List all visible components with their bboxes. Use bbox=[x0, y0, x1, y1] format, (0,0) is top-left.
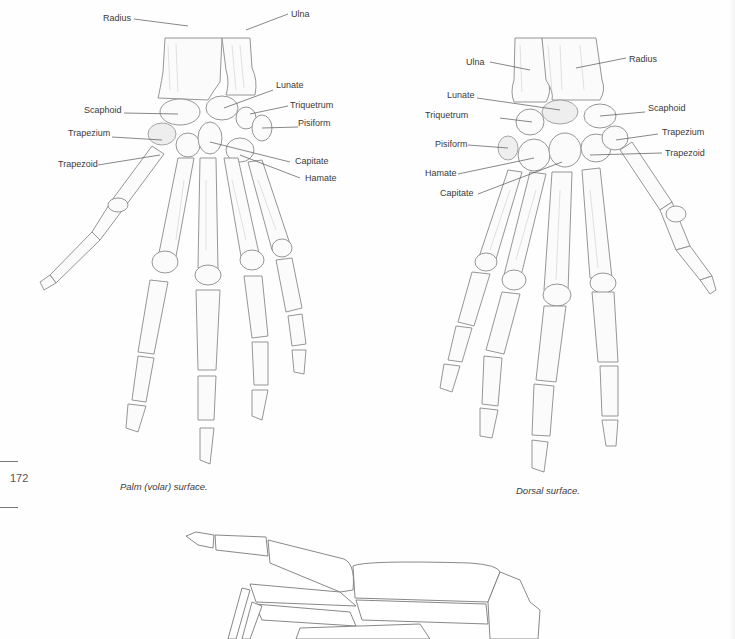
palm-label-radius: Radius bbox=[103, 13, 131, 23]
dorsal-label-trapezium: Trapezium bbox=[662, 127, 704, 137]
side-view-drawing bbox=[186, 532, 540, 639]
dorsal-label-radius: Radius bbox=[629, 54, 657, 64]
dorsal-label-pisiform: Pisiform bbox=[435, 139, 468, 149]
dorsal-label-hamate: Hamate bbox=[425, 168, 457, 178]
dorsal-label-triquetrum: Triquetrum bbox=[425, 110, 468, 120]
palm-label-ulna: Ulna bbox=[291, 9, 310, 19]
folio-rule-top bbox=[0, 461, 18, 462]
dorsal-label-capitate: Capitate bbox=[440, 188, 474, 198]
dorsal-label-ulna: Ulna bbox=[466, 57, 485, 67]
folio-rule-bottom bbox=[0, 507, 18, 508]
anatomy-illustrations bbox=[0, 0, 735, 639]
page-number: 172 bbox=[10, 472, 28, 484]
palm-label-pisiform: Pisiform bbox=[298, 118, 331, 128]
dorsal-label-lunate: Lunate bbox=[447, 90, 475, 100]
book-page: Radius Ulna Lunate Scaphoid Triquetrum P… bbox=[0, 0, 735, 639]
dorsal-view-caption: Dorsal surface. bbox=[516, 485, 580, 496]
palm-label-lunate: Lunate bbox=[276, 80, 304, 90]
palm-view-caption: Palm (volar) surface. bbox=[120, 481, 208, 492]
palm-label-capitate: Capitate bbox=[295, 156, 329, 166]
palm-label-hamate: Hamate bbox=[305, 173, 337, 183]
palm-label-trapezium: Trapezium bbox=[68, 128, 110, 138]
palm-label-trapezoid: Trapezoid bbox=[58, 159, 98, 169]
dorsal-label-scaphoid: Scaphoid bbox=[648, 103, 686, 113]
palm-label-triquetrum: Triquetrum bbox=[290, 100, 333, 110]
palm-view-drawing bbox=[40, 14, 306, 464]
page-gutter-edge bbox=[729, 0, 735, 639]
palm-label-scaphoid: Scaphoid bbox=[84, 105, 122, 115]
dorsal-label-trapezoid: Trapezoid bbox=[665, 148, 705, 158]
